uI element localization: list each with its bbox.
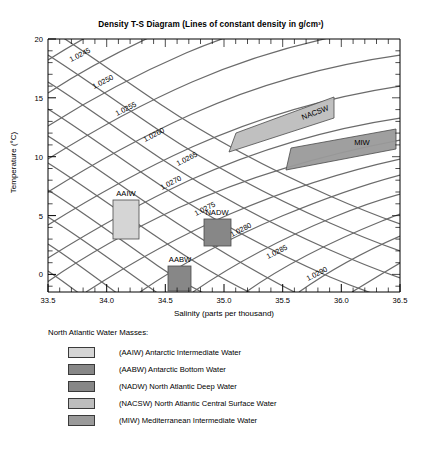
x-tick-label: 36.5	[393, 296, 408, 305]
y-minor-ticks	[48, 51, 53, 286]
plot-area: AAIW AABW NADW NACSW MIW	[0, 0, 422, 330]
x-tick-label: 33.5	[41, 296, 56, 305]
legend-label-aaiw: (AAIW) Antarctic Intermediate Water	[119, 348, 241, 357]
y-tick-labels: 20 15 10 5 0	[35, 35, 43, 279]
x-tick-label: 34.0	[99, 296, 114, 305]
legend-swatch-aabw	[68, 364, 95, 375]
y-axis-label: Temperature (°C)	[9, 103, 18, 223]
legend-label-nacsw: (NACSW) North Atlantic Central Surface W…	[119, 399, 277, 408]
legend: North Atlantic Water Masses: (AAIW) Anta…	[48, 328, 408, 429]
legend-item-nacsw: (NACSW) North Atlantic Central Surface W…	[48, 395, 408, 412]
y-tick-label: 20	[35, 35, 43, 44]
legend-item-miw: (MIW) Mediterranean Intermediate Water	[48, 412, 408, 429]
density-ts-diagram-figure: Density T-S Diagram (Lines of constant d…	[0, 0, 422, 455]
legend-swatch-miw	[68, 415, 95, 426]
plot-svg: AAIW AABW NADW NACSW MIW	[0, 0, 422, 330]
legend-label-miw: (MIW) Mediterranean Intermediate Water	[119, 416, 257, 425]
water-mass-label-aabw: AABW	[169, 255, 192, 264]
x-tick-label: 36.0	[334, 296, 349, 305]
water-mass-aabw: AABW	[168, 255, 192, 291]
x-tick-label: 34.5	[158, 296, 173, 305]
legend-swatch-nacsw	[68, 398, 95, 409]
legend-title: North Atlantic Water Masses:	[48, 328, 408, 337]
x-tick-label: 35.0	[217, 296, 232, 305]
y-tick-label: 15	[35, 94, 43, 103]
legend-swatch-nadw	[68, 381, 95, 392]
x-tick-labels: 33.5 34.0 34.5 35.0 35.5 36.0 36.5	[41, 296, 408, 305]
legend-item-aabw: (AABW) Antarctic Bottom Water	[48, 361, 408, 378]
legend-label-nadw: (NADW) North Atlantic Deep Water	[119, 382, 237, 391]
x-axis-label: Salinity (parts per thousand)	[48, 309, 400, 318]
water-mass-label-aaiw: AAIW	[116, 189, 136, 198]
y-tick-label: 0	[39, 270, 43, 279]
legend-item-nadw: (NADW) North Atlantic Deep Water	[48, 378, 408, 395]
legend-item-aaiw: (AAIW) Antarctic Intermediate Water	[48, 344, 408, 361]
y-tick-label: 5	[39, 212, 43, 221]
x-tick-label: 35.5	[275, 296, 290, 305]
legend-swatch-aaiw	[68, 347, 95, 358]
water-mass-nadw: NADW	[204, 208, 231, 246]
water-mass-aaiw: AAIW	[113, 189, 139, 239]
legend-label-aabw: (AABW) Antarctic Bottom Water	[119, 365, 226, 374]
water-mass-label-miw: MIW	[354, 138, 370, 147]
y-tick-label: 10	[35, 153, 43, 162]
